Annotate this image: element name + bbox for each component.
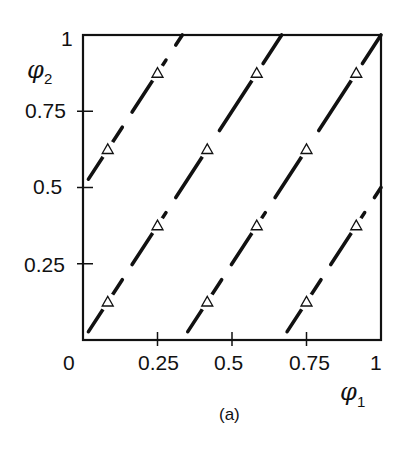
line-1 [83, 35, 282, 340]
x-axis-label: φ 1 [340, 378, 365, 410]
y-tick-label-05: 0.5 [33, 175, 62, 198]
plot-frame [83, 35, 381, 340]
chart: 1 0.75 0.5 0.25 0 0.25 0.5 0.75 1 φ 2 φ … [0, 0, 403, 458]
dashed-lines [83, 35, 381, 340]
svg-text:2: 2 [44, 70, 52, 87]
svg-text:φ: φ [340, 378, 357, 406]
y-tick-label-1: 1 [61, 27, 73, 50]
svg-text:1: 1 [357, 393, 365, 410]
figure-caption: (a) [219, 405, 240, 424]
line-3 [182, 35, 381, 340]
x-tick-label-1: 1 [370, 351, 382, 374]
x-tick-label-0: 0 [63, 351, 75, 374]
y-tick-label-025: 0.25 [24, 253, 65, 276]
y-axis-label: φ 2 [27, 56, 52, 87]
x-tick-label-025: 0.25 [138, 351, 179, 374]
x-tick-label-075: 0.75 [289, 351, 330, 374]
svg-text:φ: φ [27, 56, 44, 84]
line-4 [282, 188, 381, 341]
x-tick-label-05: 0.5 [214, 351, 243, 374]
y-tick-label-075: 0.75 [25, 99, 66, 122]
line-2 [83, 35, 182, 188]
